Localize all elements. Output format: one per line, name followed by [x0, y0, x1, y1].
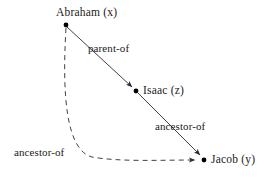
inference-diagram: Abraham (x) Isaac (z) Jacob (y) parent-o… [0, 0, 266, 179]
edge-label-ancestor-of-isaac-jacob: ancestor-of [155, 121, 205, 132]
edge-label-parent-of: parent-of [88, 43, 129, 54]
node-jacob[interactable] [202, 158, 207, 163]
node-label-isaac: Isaac (z) [143, 85, 184, 97]
edge-label-ancestor-of-abraham-jacob: ancestor-of [14, 147, 64, 158]
node-isaac[interactable] [134, 89, 139, 94]
node-abraham[interactable] [64, 23, 69, 28]
edge-abraham-isaac [67, 27, 132, 87]
node-label-jacob: Jacob (y) [211, 154, 255, 166]
node-label-abraham: Abraham (x) [56, 7, 117, 19]
